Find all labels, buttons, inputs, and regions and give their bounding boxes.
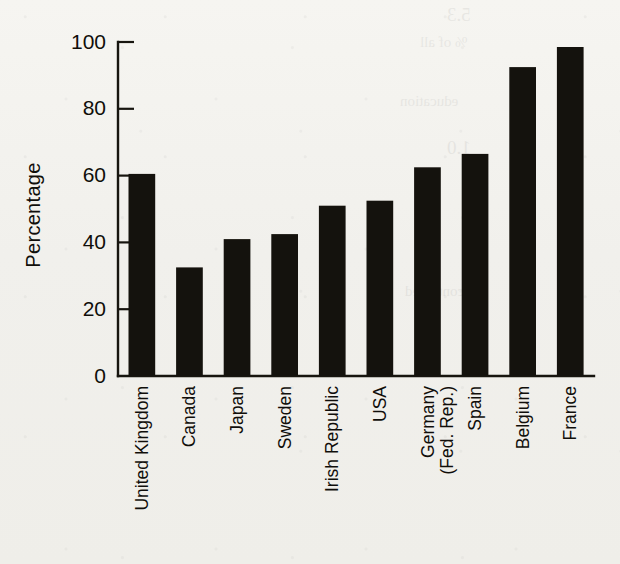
bar-sweden	[271, 234, 298, 376]
x-label-sweden: Sweden	[275, 386, 295, 449]
y-axis: 020406080100	[71, 30, 134, 387]
x-label-irish-republic: Irish Republic	[322, 386, 342, 492]
bar-belgium	[509, 67, 536, 376]
bar-germany-fed-rep	[414, 167, 441, 376]
x-label-france: France	[560, 386, 580, 440]
y-axis-title: Percentage	[22, 162, 44, 267]
y-tick-label-80: 80	[83, 96, 106, 119]
x-label-germany-fed-rep: Germany(Fed. Rep.)	[418, 386, 457, 475]
y-tick-label-60: 60	[83, 163, 106, 186]
bar-chart: 020406080100 Percentage United KingdomCa…	[0, 0, 620, 564]
y-tick-label-100: 100	[71, 30, 106, 53]
x-label-united-kingdom: United Kingdom	[132, 386, 152, 511]
y-tick-label-20: 20	[83, 297, 106, 320]
x-label-spain: Spain	[465, 386, 485, 431]
bar-japan	[224, 239, 251, 376]
x-label-belgium: Belgium	[513, 386, 533, 449]
bar-spain	[462, 154, 489, 376]
bar-united-kingdom	[129, 174, 156, 376]
x-axis-labels: United KingdomCanadaJapanSwedenIrish Rep…	[132, 386, 580, 511]
y-tick-label-40: 40	[83, 230, 106, 253]
bar-irish-republic	[319, 206, 346, 376]
y-tick-label-0: 0	[94, 364, 106, 387]
bar-usa	[367, 201, 394, 376]
x-label-usa: USA	[370, 386, 390, 422]
bar-canada	[176, 267, 203, 376]
bar-series	[129, 47, 584, 376]
bar-france	[557, 47, 584, 376]
x-label-japan: Japan	[227, 386, 247, 434]
x-label-canada: Canada	[179, 386, 199, 448]
